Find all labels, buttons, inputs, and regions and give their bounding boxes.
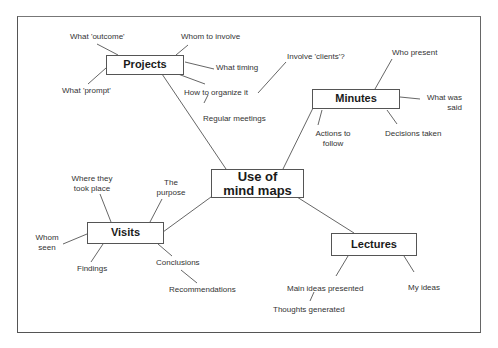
link-visits-purpose (150, 199, 162, 222)
link-center-visits (163, 197, 211, 232)
link-lectures-main (336, 256, 348, 276)
leaf-actions-line2: follow (312, 139, 354, 149)
branch-node-visits: Visits (87, 222, 164, 244)
link-projects-whom (176, 45, 188, 55)
branch-node-lectures: Lectures (331, 233, 417, 256)
link-projects-outcome (97, 44, 118, 55)
link-center-lectures (297, 197, 354, 233)
link-visits-where (100, 194, 111, 222)
leaf-involve-clients: Involve 'clients'? (287, 52, 345, 62)
leaf-decisions-taken: Decisions taken (385, 129, 441, 139)
branch-node-minutes: Minutes (312, 89, 400, 109)
leaf-thoughts-generated: Thoughts generated (273, 305, 345, 315)
leaf-whom-seen: Whom seen (32, 233, 62, 252)
leaf-what-was-said-line1: What was (422, 93, 462, 103)
central-node-line2: mind maps (223, 184, 292, 198)
central-node: Use of mind maps (211, 169, 304, 198)
link-projects-timing (185, 62, 214, 69)
leaf-purpose-line2: purpose (153, 188, 189, 198)
link-lectures-my (404, 256, 414, 272)
link-minutes-who (375, 59, 392, 89)
link-visits-findings (91, 244, 103, 262)
leaf-where-line1: Where they (64, 174, 120, 184)
link-conclusions-recommendations (181, 270, 197, 283)
leaf-recommendations: Recommendations (169, 285, 236, 295)
leaf-what-prompt: What 'prompt' (62, 86, 111, 96)
leaf-findings: Findings (77, 264, 107, 274)
leaf-regular-meetings: Regular meetings (203, 114, 266, 124)
leaf-where-line2: took place (64, 184, 120, 194)
link-visits-conclusions (158, 244, 172, 256)
leaf-where-they-took-place: Where they took place (64, 174, 120, 193)
leaf-purpose-line1: The (153, 178, 189, 188)
link-minutes-decisions (387, 110, 397, 124)
link-organize-clients (258, 62, 286, 93)
link-minutes-said (400, 97, 420, 99)
link-projects-prompt (88, 68, 106, 84)
leaf-actions-to-follow: Actions to follow (312, 129, 354, 148)
leaf-whom-seen-line1: Whom (32, 233, 62, 243)
central-node-line1: Use of (238, 170, 278, 184)
leaf-actions-line1: Actions to (312, 129, 354, 139)
leaf-my-ideas: My ideas (408, 283, 440, 293)
leaf-what-outcome: What 'outcome' (70, 32, 125, 42)
link-visits-whom (63, 234, 87, 244)
leaf-conclusions: Conclusions (156, 258, 200, 268)
leaf-whom-to-involve: Whom to involve (181, 32, 240, 42)
leaf-main-ideas-presented: Main ideas presented (287, 284, 364, 294)
leaf-what-was-said: What was said (422, 93, 462, 112)
leaf-who-present: Who present (392, 48, 437, 58)
link-projects-organize (178, 74, 205, 84)
leaf-what-timing: What timing (216, 63, 258, 73)
leaf-the-purpose: The purpose (153, 178, 189, 197)
link-minutes-actions (318, 110, 322, 125)
leaf-whom-seen-line2: seen (32, 243, 62, 253)
branch-node-projects: Projects (106, 55, 184, 75)
leaf-what-was-said-line2: said (422, 103, 462, 113)
link-center-minutes (283, 108, 313, 169)
leaf-how-to-organize: How to organize it (184, 88, 248, 98)
